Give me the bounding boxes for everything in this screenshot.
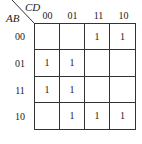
kmap-cell: 1	[35, 77, 60, 103]
kmap-cell: 1	[35, 50, 60, 76]
kmap-cell	[60, 24, 85, 50]
row-header: 01	[10, 59, 30, 69]
kmap-cell: 1	[110, 24, 135, 50]
kmap-grid: 1 1 1 1 1 1 1 1 1	[34, 23, 136, 130]
kmap-cell	[110, 50, 135, 76]
kmap-cell: 1	[110, 103, 135, 129]
col-header: 00	[35, 11, 60, 21]
kmap-cell	[35, 24, 60, 50]
kmap-cell: 1	[60, 50, 85, 76]
row-header: 11	[10, 86, 30, 96]
row-header: 10	[10, 112, 30, 122]
kmap-cell	[35, 103, 60, 129]
karnaugh-map: CD AB 00 01 11 10 00 01 11 10 1 1 1 1 1 …	[0, 0, 142, 144]
kmap-cell: 1	[60, 103, 85, 129]
col-header: 11	[86, 11, 111, 21]
kmap-cell: 1	[85, 103, 110, 129]
row-header: 00	[10, 32, 30, 42]
row-variable-label: AB	[6, 13, 19, 24]
kmap-cell	[85, 77, 110, 103]
col-header: 10	[111, 11, 136, 21]
col-header: 01	[60, 11, 85, 21]
kmap-cell	[85, 50, 110, 76]
kmap-cell: 1	[85, 24, 110, 50]
kmap-cell	[110, 77, 135, 103]
kmap-cell: 1	[60, 77, 85, 103]
